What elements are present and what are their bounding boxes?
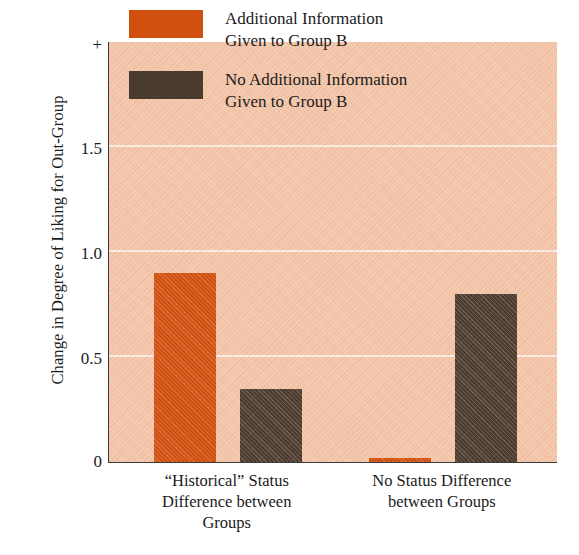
y-axis-tick-labels: + 1.5 1.0 0.5 0 — [28, 0, 102, 555]
bar-group2-no-additional-info — [455, 294, 517, 462]
y-tick-1-5: 1.5 — [32, 140, 102, 157]
legend-label-no-additional-info: No Additional Information Given to Group… — [225, 69, 407, 114]
chart-figure: Change in Degree of Liking for Out-Group… — [0, 0, 579, 555]
legend-swatch-icon-no-additional-info — [129, 71, 203, 99]
bar-group1-additional-info — [154, 273, 216, 462]
legend-swatch-icon-additional-info — [129, 10, 203, 38]
y-tick-0: 0 — [32, 453, 102, 470]
legend-entry-additional-info: Additional Information Given to Group B — [129, 10, 407, 53]
x-axis-category-labels: “Historical” Status Difference between G… — [108, 470, 558, 550]
bar-group1-no-additional-info — [240, 389, 302, 463]
y-tick-1-0: 1.0 — [32, 245, 102, 262]
chart-legend: Additional Information Given to Group B … — [129, 10, 407, 132]
gridline-1-5 — [109, 145, 557, 147]
legend-label-additional-info: Additional Information Given to Group B — [225, 8, 383, 53]
gridline-1-0 — [109, 250, 557, 252]
y-tick-top: + — [32, 36, 102, 53]
x-label-no-status-difference: No Status Difference between Groups — [322, 470, 562, 512]
y-tick-0-5: 0.5 — [32, 350, 102, 367]
legend-entry-no-additional-info: No Additional Information Given to Group… — [129, 71, 407, 114]
bar-group2-additional-info — [369, 458, 431, 462]
x-label-historical-status-difference: “Historical” Status Difference between G… — [107, 470, 347, 533]
